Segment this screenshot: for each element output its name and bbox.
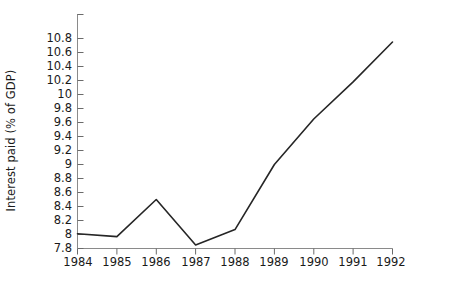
- line-chart: Interest paid (% of GDP) 7.8 8 8.2 8.4 8…: [0, 0, 452, 281]
- x-tick-label: 1992: [363, 256, 419, 268]
- x-axis-tick-labels: 1984 1985 1986 1987 1988 1989 1990 1991 …: [0, 0, 452, 281]
